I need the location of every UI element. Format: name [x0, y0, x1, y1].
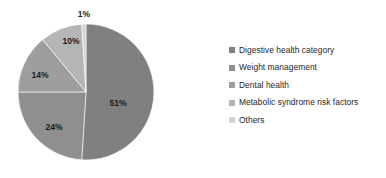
legend-swatch-icon: [229, 47, 235, 53]
pie-plot-area: 51%24%14%10%1%: [0, 0, 210, 178]
pie-slice-label: 24%: [45, 122, 62, 132]
pie-slice-label: 51%: [109, 98, 126, 108]
legend-item[interactable]: Weight management: [229, 60, 384, 75]
pie-chart-figure: 51%24%14%10%1% Digestive health category…: [0, 0, 386, 178]
legend-item[interactable]: Digestive health category: [229, 42, 384, 57]
pie-slice-label: 1%: [78, 9, 91, 19]
legend-swatch-icon: [229, 100, 235, 106]
pie-slice-label: 10%: [62, 36, 79, 46]
legend-item-label: Weight management: [239, 62, 317, 72]
pie-slice-label: 14%: [31, 70, 48, 80]
legend-item[interactable]: Metabolic syndrome risk factors: [229, 95, 384, 110]
legend-swatch-icon: [229, 82, 235, 88]
chart-legend: Digestive health category Weight managem…: [229, 42, 384, 130]
legend-swatch-icon: [229, 65, 235, 71]
pie-svg: 51%24%14%10%1%: [0, 0, 210, 178]
pie-slice[interactable]: [82, 24, 154, 160]
legend-item[interactable]: Dental health: [229, 77, 384, 92]
legend-item-label: Digestive health category: [239, 45, 334, 55]
legend-item-label: Metabolic syndrome risk factors: [239, 97, 358, 107]
legend-swatch-icon: [229, 117, 235, 123]
legend-item-label: Others: [239, 115, 264, 125]
legend-item[interactable]: Others: [229, 112, 384, 127]
legend-item-label: Dental health: [239, 80, 289, 90]
